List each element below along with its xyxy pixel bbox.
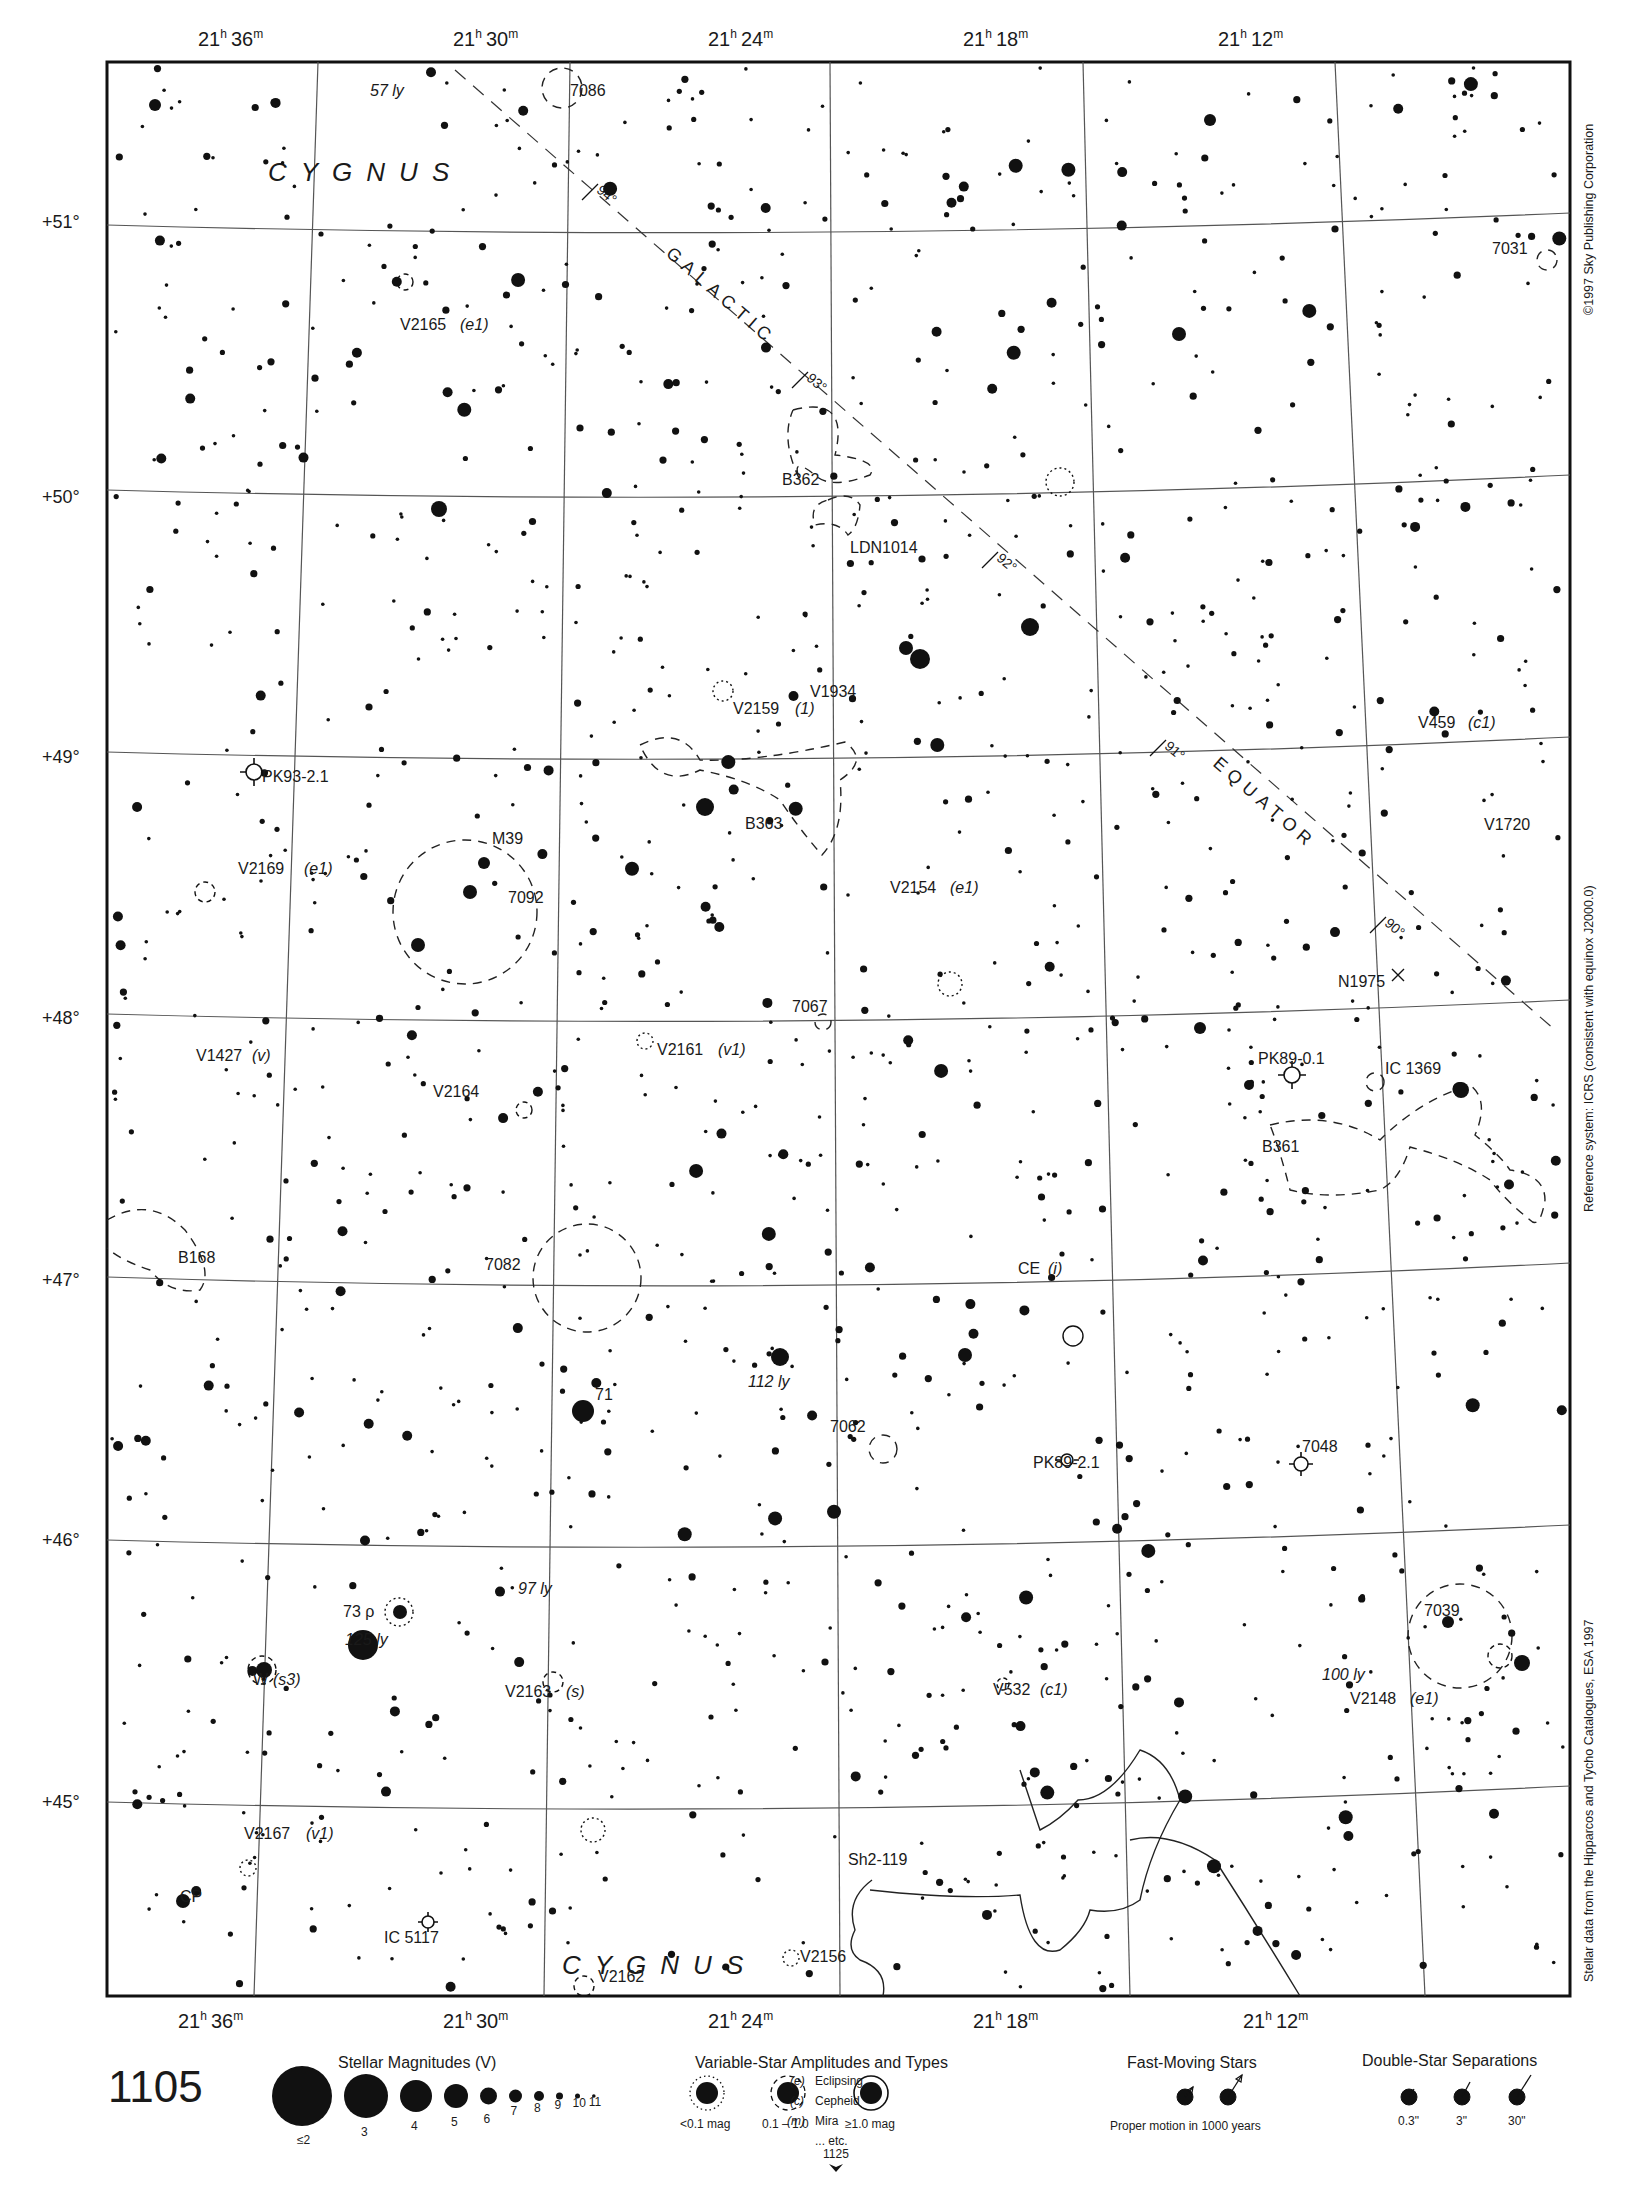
star	[1271, 1714, 1275, 1718]
star	[1276, 683, 1280, 687]
star	[1551, 1156, 1561, 1166]
star	[176, 501, 181, 506]
object-label: 7082	[485, 1256, 521, 1273]
star	[1469, 1231, 1474, 1236]
magnitude-label: 7	[511, 2104, 518, 2118]
star	[1061, 1854, 1066, 1859]
star	[881, 1053, 885, 1057]
star	[1332, 1868, 1336, 1872]
star	[762, 315, 766, 319]
star	[147, 1795, 152, 1800]
star	[851, 376, 855, 380]
star	[310, 1925, 317, 1932]
star	[588, 1764, 592, 1768]
star	[1395, 485, 1402, 492]
star	[1396, 1386, 1400, 1390]
star	[278, 681, 283, 686]
star	[1186, 1542, 1191, 1547]
data-source-note: Stellar data from the Hipparcos and Tych…	[1582, 1619, 1596, 1982]
star	[648, 688, 653, 693]
star	[551, 362, 555, 366]
star	[1249, 1060, 1254, 1065]
star	[311, 1027, 315, 1031]
star	[1228, 1102, 1232, 1106]
star	[1053, 904, 1057, 908]
star	[1141, 1544, 1155, 1558]
star	[1442, 173, 1447, 178]
bright-star	[910, 649, 930, 669]
star	[1436, 1373, 1441, 1378]
star	[1536, 1646, 1540, 1650]
star	[821, 104, 825, 108]
star	[315, 410, 319, 414]
dark-nebula-b363	[640, 738, 856, 855]
star	[1181, 781, 1185, 785]
star	[1276, 1460, 1280, 1464]
star	[518, 147, 522, 151]
star	[170, 106, 174, 110]
star	[336, 1286, 346, 1296]
star	[646, 1759, 650, 1763]
star	[409, 1190, 414, 1195]
star	[1501, 1676, 1505, 1680]
star	[236, 1092, 240, 1096]
next-page-arrow-icon[interactable]	[829, 2164, 843, 2172]
star	[1209, 611, 1214, 616]
star	[769, 1020, 773, 1024]
star	[1167, 821, 1171, 825]
star	[655, 959, 660, 964]
star	[666, 1305, 670, 1309]
star	[1366, 1189, 1370, 1193]
star	[185, 394, 195, 404]
star	[490, 1411, 494, 1415]
star	[182, 1920, 186, 1924]
fast-moving-legend-symbols	[1177, 2075, 1242, 2105]
star	[310, 1377, 314, 1381]
star	[920, 1841, 924, 1845]
star	[365, 703, 372, 710]
star	[1069, 524, 1073, 528]
star	[795, 450, 799, 454]
star	[1126, 1572, 1131, 1577]
star	[447, 969, 452, 974]
star	[943, 799, 948, 804]
star	[462, 1957, 466, 1961]
star	[588, 1490, 595, 1497]
star	[1019, 1985, 1023, 1989]
object-label: V532	[993, 1681, 1030, 1698]
star	[311, 1160, 318, 1167]
star	[1508, 499, 1515, 506]
star	[1246, 1481, 1253, 1488]
star	[1453, 115, 1458, 120]
star	[1342, 554, 1346, 558]
star	[923, 1870, 928, 1875]
star	[1067, 550, 1074, 557]
star	[249, 1040, 253, 1044]
object-label: B168	[178, 1249, 215, 1266]
star	[1209, 847, 1213, 851]
star	[1365, 1316, 1369, 1320]
star	[1230, 879, 1235, 884]
star	[487, 645, 492, 650]
star	[651, 1430, 655, 1434]
bright-star	[149, 99, 161, 111]
star	[465, 1631, 470, 1636]
star	[239, 931, 243, 935]
star	[1037, 1175, 1042, 1180]
star	[1297, 1875, 1301, 1879]
star	[674, 1603, 678, 1607]
star	[1194, 354, 1198, 358]
star	[602, 977, 606, 981]
cluster-outline-7062	[869, 1435, 897, 1463]
star	[515, 609, 519, 613]
star	[386, 1061, 391, 1066]
star	[230, 1217, 234, 1221]
star	[817, 667, 822, 672]
bright-star	[393, 1605, 407, 1619]
star	[562, 281, 569, 288]
star	[1411, 1851, 1416, 1856]
star	[1473, 621, 1477, 625]
star	[1112, 1019, 1119, 1026]
star	[206, 540, 210, 544]
star	[658, 551, 662, 555]
